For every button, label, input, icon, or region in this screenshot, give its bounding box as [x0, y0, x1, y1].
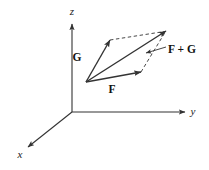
- vector-group: [86, 31, 166, 82]
- axis-label-z: z: [69, 5, 75, 17]
- vector-diagram: z y x G F F + G: [0, 0, 209, 170]
- dashed-edge-f-to-resultant: [141, 33, 165, 73]
- vector-label-f: F: [108, 83, 115, 95]
- vector-label-resultant: F + G: [168, 43, 196, 55]
- dashed-edge-g-to-resultant: [110, 32, 165, 41]
- resultant-leader-line: [146, 47, 166, 53]
- axis-label-y: y: [190, 105, 196, 117]
- vector-label-g: G: [73, 51, 82, 63]
- axis-line-x: [28, 112, 72, 147]
- vector-arrow-g: [86, 40, 110, 82]
- vector-addition-figure: z y x G F F + G: [0, 0, 209, 170]
- axis-group: [28, 24, 185, 147]
- axis-label-x: x: [17, 148, 23, 160]
- axis-labels: z y x: [17, 5, 196, 160]
